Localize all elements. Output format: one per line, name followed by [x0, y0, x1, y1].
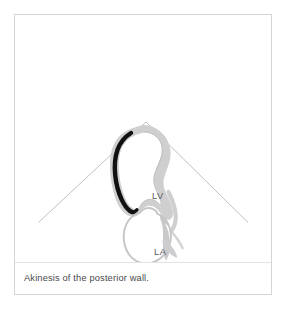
figure-caption: Akinesis of the posterior wall.	[24, 272, 149, 284]
chamber-label-la: LA	[154, 247, 166, 257]
figure-page: LV LA Akinesis of the posterior wall.	[0, 0, 285, 309]
echocardiogram-drawing: LV LA	[15, 15, 271, 262]
caption-band: Akinesis of the posterior wall.	[15, 263, 271, 294]
chamber-label-lv: LV	[152, 191, 164, 201]
echocardiogram-svg	[15, 15, 271, 262]
